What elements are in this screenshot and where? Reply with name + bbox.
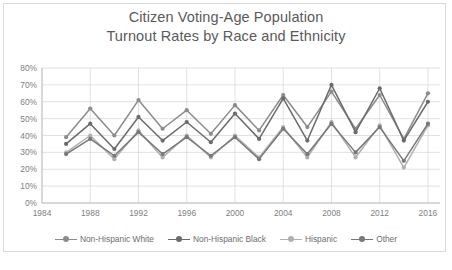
series-data-point: [281, 127, 285, 131]
series-data-point: [136, 130, 140, 134]
series-data-point: [64, 152, 68, 156]
series-data-point: [209, 140, 213, 144]
series-data-point: [329, 83, 333, 87]
legend-item-label: Non-Hispanic White: [80, 234, 154, 244]
legend-item[interactable]: Non-Hispanic White: [55, 234, 154, 244]
series-data-point: [426, 91, 430, 95]
series-data-point: [161, 127, 165, 131]
y-axis-tick-label: 70%: [20, 80, 37, 90]
series-data-point: [353, 150, 357, 154]
x-axis-tick-label: 1984: [33, 208, 52, 218]
series-data-point: [378, 86, 382, 90]
legend-swatch-icon: [351, 235, 373, 244]
series-data-point: [209, 132, 213, 136]
x-axis-tick-label: 1992: [129, 208, 148, 218]
series-data-point: [426, 122, 430, 126]
x-axis-tick-label: 2004: [274, 208, 293, 218]
legend-item-label: Hispanic: [305, 234, 337, 244]
series-data-point: [305, 138, 309, 142]
series-line: [66, 124, 428, 161]
x-axis-tick-label: 2000: [226, 208, 245, 218]
y-axis-tick-label: 30%: [20, 147, 37, 157]
series-data-point: [161, 152, 165, 156]
series-data-point: [136, 98, 140, 102]
series-data-point: [378, 125, 382, 129]
series-data-point: [233, 111, 237, 115]
series-data-point: [426, 100, 430, 104]
x-axis-tick-labels: 198419881992199620002004200820122016: [33, 208, 438, 218]
plot-area: 0%10%20%30%40%50%60%70%80% 1984198819921…: [0, 0, 452, 270]
y-axis-tick-label: 10%: [20, 181, 37, 191]
series-data-point: [233, 135, 237, 139]
series-data-point: [257, 157, 261, 161]
legend-item-label: Other: [376, 234, 397, 244]
series-data-point: [161, 138, 165, 142]
y-axis-tick-label: 20%: [20, 164, 37, 174]
y-axis-tick-label: 60%: [20, 97, 37, 107]
y-axis-tick-label: 40%: [20, 131, 37, 141]
series-data-point: [402, 165, 406, 169]
chart-legend: Non-Hispanic WhiteNon-Hispanic BlackHisp…: [0, 234, 452, 244]
data-series: [64, 120, 430, 170]
series-data-point: [329, 122, 333, 126]
legend-swatch-icon: [280, 235, 302, 244]
series-data-point: [64, 142, 68, 146]
series-data-point: [64, 135, 68, 139]
series-data-point: [185, 108, 189, 112]
y-axis-tick-labels: 0%10%20%30%40%50%60%70%80%: [20, 63, 37, 208]
series-data-point: [305, 125, 309, 129]
series-data-point: [88, 122, 92, 126]
x-axis-tick-label: 2012: [370, 208, 389, 218]
x-axis-tick-label: 2016: [419, 208, 438, 218]
series-data-point: [88, 137, 92, 141]
y-axis-tick-label: 50%: [20, 114, 37, 124]
series-data-point: [281, 96, 285, 100]
series-data-point: [209, 154, 213, 158]
series-data-point: [88, 106, 92, 110]
series-data-point: [353, 155, 357, 159]
series-data-point: [185, 120, 189, 124]
y-axis-tick-label: 0%: [25, 198, 38, 208]
series-data-point: [353, 130, 357, 134]
x-axis-tick-label: 1988: [81, 208, 100, 218]
x-axis-tick-label: 1996: [177, 208, 196, 218]
legend-item[interactable]: Other: [351, 234, 397, 244]
y-axis-tick-label: 80%: [20, 63, 37, 73]
series-data-point: [257, 128, 261, 132]
chart-plot-svg: 0%10%20%30%40%50%60%70%80% 1984198819921…: [0, 0, 452, 270]
series-data-point: [305, 152, 309, 156]
series-data-point: [378, 93, 382, 97]
series-data-point: [185, 135, 189, 139]
legend-swatch-icon: [55, 235, 77, 244]
series-data-point: [402, 138, 406, 142]
series-data-point: [112, 133, 116, 137]
series-data-point: [112, 154, 116, 158]
series-data-point: [402, 159, 406, 163]
legend-swatch-icon: [168, 235, 190, 244]
series-data-point: [136, 115, 140, 119]
x-axis-tick-label: 2008: [322, 208, 341, 218]
data-series-layer: [64, 83, 430, 170]
legend-item-label: Non-Hispanic Black: [193, 234, 266, 244]
legend-item[interactable]: Non-Hispanic Black: [168, 234, 266, 244]
series-data-point: [112, 147, 116, 151]
series-line: [66, 122, 428, 168]
chart-card: Citizen Voting-Age Population Turnout Ra…: [0, 0, 452, 270]
series-data-point: [257, 137, 261, 141]
legend-item[interactable]: Hispanic: [280, 234, 337, 244]
series-data-point: [233, 103, 237, 107]
